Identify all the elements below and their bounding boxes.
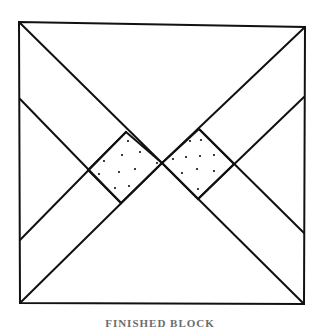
stipple-dot <box>213 154 215 156</box>
stipple-dot <box>181 172 183 174</box>
stipple-dot <box>134 168 136 170</box>
left-dotted-square <box>88 132 162 203</box>
right-dotted-square <box>162 129 234 199</box>
stipple-dot <box>139 151 141 153</box>
stipple-dot <box>118 171 120 173</box>
stipple-dot <box>127 140 129 142</box>
dotted-squares <box>88 129 234 203</box>
stipple-dot <box>114 187 116 189</box>
stipple-dot <box>189 140 191 142</box>
figure-caption: FINISHED BLOCK <box>0 317 320 327</box>
stipple-dot <box>200 139 202 141</box>
stipple-dot <box>172 158 174 160</box>
stipple-dot <box>121 154 123 156</box>
diagonal-top-left-to-center <box>19 22 162 163</box>
stipple-dot <box>128 185 130 187</box>
stipple-dot <box>185 156 187 158</box>
stipple-dot <box>103 160 105 162</box>
stipple-dot <box>156 162 158 164</box>
stipple-dot <box>213 170 215 172</box>
stipple-dot <box>196 168 198 170</box>
left-dotted-square-outline <box>88 132 162 203</box>
stipple-dot <box>197 188 199 190</box>
stipple-dot <box>98 173 100 175</box>
quilt-block-diagram <box>0 0 320 327</box>
stipple-dot <box>199 155 201 157</box>
